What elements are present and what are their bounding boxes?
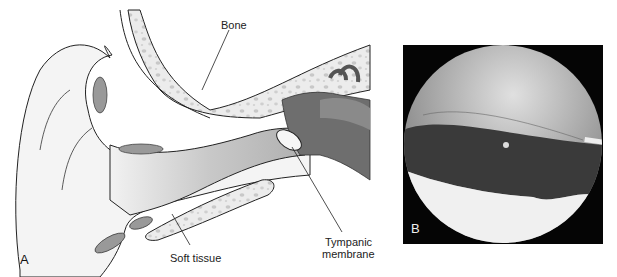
tympanic-label-line2: membrane xyxy=(322,248,375,260)
panel-b-letter: B xyxy=(411,221,420,236)
panel-a-ear-diagram: Bone Soft tissue Tympanic membrane A xyxy=(0,0,380,277)
ear-anatomy-illustration xyxy=(0,0,380,277)
otoscope-image xyxy=(403,45,603,244)
soft-tissue-label: Soft tissue xyxy=(170,252,221,264)
panel-a-letter: A xyxy=(20,252,29,267)
tympanic-label-line1: Tympanic xyxy=(325,236,372,248)
bone-label: Bone xyxy=(221,19,247,31)
bone-leader-line xyxy=(202,30,229,90)
panel-b-otoscopic-photo: B xyxy=(403,45,603,244)
